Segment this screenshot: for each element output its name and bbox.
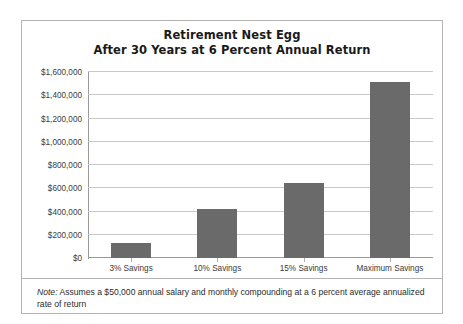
x-axis-tick-label: Maximum Savings [356, 264, 423, 273]
chart-figure: Retirement Nest Egg After 30 Years at 6 … [21, 20, 443, 314]
bar-slot: 15% Savings [261, 72, 347, 258]
x-axis-tick-label: 15% Savings [280, 264, 328, 273]
x-axis-tick [131, 258, 132, 262]
x-axis-tick [304, 258, 305, 262]
note-separator [22, 278, 442, 279]
y-axis-tick-label: $1,600,000 [41, 68, 82, 77]
x-axis-tick-label: 3% Savings [110, 264, 153, 273]
bar[interactable] [370, 82, 410, 258]
x-axis-tick [217, 258, 218, 262]
plot-area: $0$200,000$400,000$600,000$800,000$1,000… [88, 72, 433, 258]
bar-slot: Maximum Savings [347, 72, 433, 258]
y-axis-tick-label: $1,200,000 [41, 114, 82, 123]
footnote-text: Assumes a $50,000 annual salary and mont… [37, 287, 424, 309]
x-axis-tick [390, 258, 391, 262]
y-axis-tick-label: $200,000 [48, 230, 82, 239]
bar[interactable] [111, 243, 151, 258]
bar[interactable] [197, 209, 237, 258]
y-axis-tick-label: $1,400,000 [41, 91, 82, 100]
chart-footnote: Note: Assumes a $50,000 annual salary an… [37, 286, 429, 310]
chart-title-line-2: After 30 Years at 6 Percent Annual Retur… [22, 43, 442, 58]
chart-title: Retirement Nest Egg After 30 Years at 6 … [22, 28, 442, 58]
y-axis-tick-label: $800,000 [48, 161, 82, 170]
y-axis-tick-label: $400,000 [48, 207, 82, 216]
y-axis-tick-label: $1,000,000 [41, 137, 82, 146]
bar-slot: 3% Savings [88, 72, 174, 258]
chart-title-line-1: Retirement Nest Egg [22, 28, 442, 43]
x-axis-tick-label: 10% Savings [193, 264, 241, 273]
y-axis-tick-label: $600,000 [48, 184, 82, 193]
y-axis-tick-label: $0 [73, 254, 82, 263]
bar[interactable] [284, 183, 324, 258]
bar-slot: 10% Savings [174, 72, 260, 258]
footnote-label: Note: [37, 287, 58, 297]
